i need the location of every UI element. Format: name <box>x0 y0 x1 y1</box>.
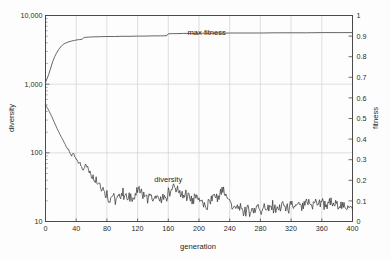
y2-tick-label: 0.1 <box>357 197 367 206</box>
x-tick-label: 40 <box>72 224 80 233</box>
y2-tick-label: 0.5 <box>357 114 367 123</box>
y2-tick-label: 0.7 <box>357 73 367 82</box>
y2-tick-label: 1 <box>357 11 361 20</box>
y-tick-label: 10,000 <box>21 11 43 20</box>
y2-tick-label: 0.8 <box>357 52 367 61</box>
x-tick-label: 200 <box>193 224 205 233</box>
y-axis-right-title: fitness <box>371 107 380 129</box>
chart-figure: 0408012016020024028032036040010,0001,000… <box>0 0 391 259</box>
y-tick-label: 1,000 <box>25 80 43 89</box>
chart-background <box>0 0 391 259</box>
x-tick-label: 120 <box>132 224 144 233</box>
x-tick-label: 0 <box>44 224 48 233</box>
fitness-diversity-chart: 0408012016020024028032036040010,0001,000… <box>0 0 391 259</box>
y2-tick-label: 0 <box>357 217 361 226</box>
y-axis-left-title: diversity <box>7 104 16 132</box>
annotation-max-fitness: max fitness <box>187 28 226 37</box>
y2-tick-label: 0.2 <box>357 176 367 185</box>
y-tick-label: 100 <box>31 148 43 157</box>
x-tick-label: 320 <box>285 224 297 233</box>
x-tick-label: 160 <box>162 224 174 233</box>
x-tick-label: 240 <box>224 224 236 233</box>
annotation-diversity: diversity <box>154 175 182 184</box>
y-tick-label: 10 <box>35 217 43 226</box>
y2-tick-label: 0.9 <box>357 32 367 41</box>
y2-tick-label: 0.3 <box>357 155 367 164</box>
x-axis-title: generation <box>180 242 216 251</box>
x-tick-label: 80 <box>103 224 111 233</box>
x-tick-label: 280 <box>254 224 266 233</box>
x-tick-label: 360 <box>316 224 328 233</box>
y2-tick-label: 0.6 <box>357 94 367 103</box>
y2-tick-label: 0.4 <box>357 135 367 144</box>
